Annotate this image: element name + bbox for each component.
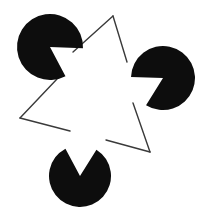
kanizsa-triangle-svg [0,0,206,209]
illusion-figure-canvas: Kanizsa Triangle Three black pac-man dis… [0,0,206,209]
